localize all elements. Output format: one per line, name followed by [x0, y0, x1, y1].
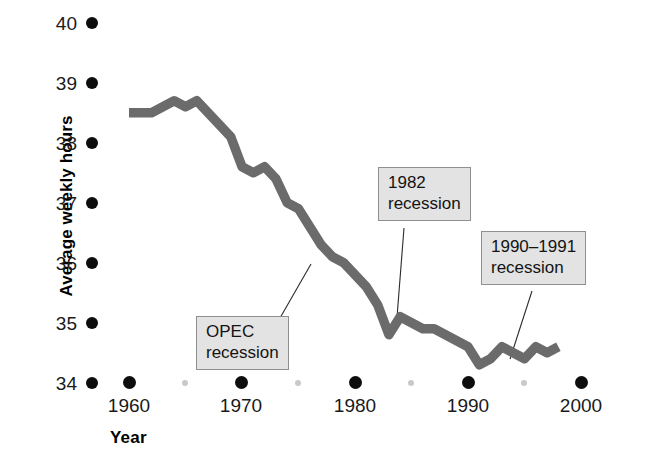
y-tick-36: 36 — [24, 254, 98, 272]
y-tick-40: 40 — [24, 14, 98, 32]
y-tick-label: 35 — [56, 314, 77, 333]
x-tick-label-1970: 1970 — [206, 396, 276, 415]
y-tick-dot-icon — [86, 197, 98, 209]
y-tick-label: 36 — [56, 254, 77, 273]
x-tick-dot-1990-icon — [462, 376, 475, 389]
y-tick-38: 38 — [24, 134, 98, 152]
x-axis-title: Year — [110, 428, 147, 448]
x-tick-label-1960: 1960 — [94, 396, 164, 415]
y-tick-label: 39 — [56, 74, 77, 93]
y-tick-39: 39 — [24, 74, 98, 92]
y-tick-dot-icon — [86, 377, 98, 389]
x-tick-dot-1975-icon — [295, 380, 301, 386]
y-tick-label: 34 — [56, 374, 77, 393]
x-tick-dot-1995-icon — [521, 380, 527, 386]
callout-opec-line1: OPEC — [206, 322, 254, 341]
x-tick-dot-1985-icon — [408, 380, 414, 386]
x-tick-dot-2000-icon — [575, 376, 588, 389]
callout-1990-1991-recession[interactable]: 1990–1991 recession — [481, 231, 586, 285]
x-tick-dot-1965-icon — [182, 380, 188, 386]
y-tick-label: 40 — [56, 14, 77, 33]
callout-opec-line2: recession — [206, 343, 279, 364]
leader-line-1982 — [396, 228, 404, 330]
y-tick-35: 35 — [24, 314, 98, 332]
callout-1982-line1: 1982 — [388, 173, 426, 192]
callout-1990-line2: recession — [491, 258, 576, 279]
y-tick-dot-icon — [86, 317, 98, 329]
x-tick-label-2000: 2000 — [546, 396, 616, 415]
callout-1982-line2: recession — [388, 194, 461, 215]
y-tick-label: 38 — [56, 134, 77, 153]
leader-line-opec — [280, 264, 311, 318]
leader-line-1990-1991 — [510, 291, 532, 359]
callout-opec-recession[interactable]: OPEC recession — [196, 316, 289, 370]
y-tick-dot-icon — [86, 137, 98, 149]
callout-1990-line1: 1990–1991 — [491, 237, 576, 256]
chart-figure: Average weekly hours 40 39 38 37 36 35 3… — [0, 0, 656, 469]
y-tick-34: 34 — [24, 374, 98, 392]
x-tick-dot-1980-icon — [349, 376, 362, 389]
y-tick-37: 37 — [24, 194, 98, 212]
x-tick-label-1990: 1990 — [433, 396, 503, 415]
x-tick-dot-1960-icon — [123, 376, 136, 389]
x-tick-dot-1970-icon — [235, 376, 248, 389]
callout-1982-recession[interactable]: 1982 recession — [378, 167, 471, 221]
y-tick-label: 37 — [56, 194, 77, 213]
y-tick-dot-icon — [86, 77, 98, 89]
x-tick-label-1980: 1980 — [320, 396, 390, 415]
y-tick-dot-icon — [86, 257, 98, 269]
y-tick-dot-icon — [86, 17, 98, 29]
